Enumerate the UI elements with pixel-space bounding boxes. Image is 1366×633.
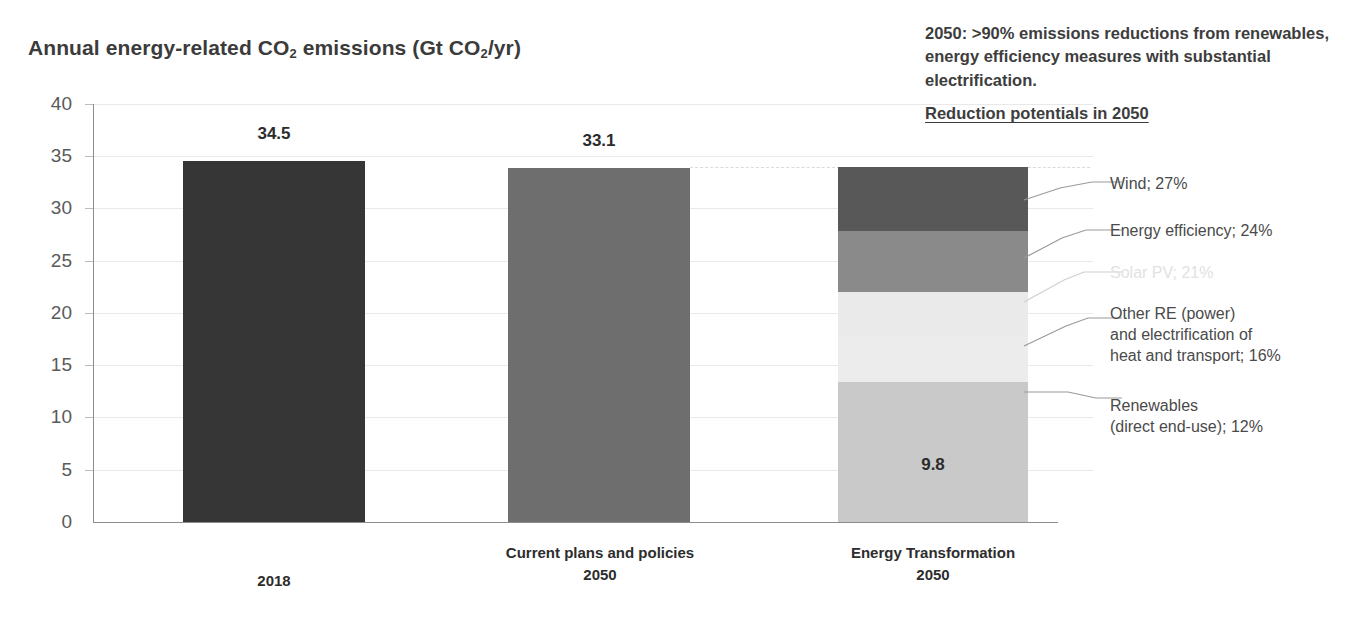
category-2018-year: 2018 (183, 570, 365, 592)
annotation-renewables: Renewables (direct end-use); 12% (1110, 395, 1366, 437)
annotation-solar-pv: Solar PV; 21% (1110, 262, 1360, 283)
bar-2018[interactable] (183, 161, 365, 522)
y-tick-20 (85, 313, 93, 314)
y-tick-label-25: 25 (14, 251, 72, 270)
projection-dashed-line (690, 167, 840, 168)
y-tick-40 (85, 104, 93, 105)
bar-value-current-plans: 33.1 (508, 131, 690, 151)
y-tick-label-0: 0 (14, 512, 72, 531)
annotation-energy-efficiency: Energy efficiency; 24% (1110, 220, 1360, 241)
gridline-40 (93, 104, 1093, 105)
chart-title-part2: emissions (Gt CO (297, 36, 481, 59)
callout-headline: 2050: >90% emissions reductions from ren… (925, 22, 1350, 92)
y-axis-line (93, 104, 94, 523)
bar-energy-transformation[interactable]: 9.8 (838, 167, 1028, 522)
chart-title-part1: Annual energy-related CO (28, 36, 289, 59)
category-label-energy-transformation: Energy Transformation 2050 (818, 542, 1048, 586)
chart-canvas: Annual energy-related CO2 emissions (Gt … (0, 0, 1366, 633)
category-current-plans-title: Current plans and policies (480, 542, 720, 564)
segment-energy-efficiency[interactable] (838, 231, 1028, 292)
x-axis-line (93, 522, 1058, 523)
segment-solar-pv[interactable] (838, 292, 1028, 337)
y-tick-label-15: 15 (14, 355, 72, 374)
y-tick-label-5: 5 (14, 460, 72, 479)
y-tick-label-10: 10 (14, 407, 72, 426)
annotation-wind: Wind; 27% (1110, 173, 1360, 194)
category-current-plans-year: 2050 (480, 564, 720, 586)
y-tick-10 (85, 417, 93, 418)
chart-title-sub-1: 2 (289, 46, 296, 61)
bar-value-remaining-emissions: 9.8 (838, 455, 1028, 475)
gridline-35 (93, 156, 1093, 157)
chart-title: Annual energy-related CO2 emissions (Gt … (28, 36, 521, 60)
y-tick-5 (85, 470, 93, 471)
y-tick-15 (85, 365, 93, 366)
chart-title-sub-2: 2 (481, 46, 488, 61)
category-label-current-plans: Current plans and policies 2050 (480, 542, 720, 586)
y-tick-label-30: 30 (14, 198, 72, 217)
bar-value-2018: 34.5 (183, 124, 365, 144)
segment-wind[interactable] (838, 167, 1028, 231)
y-tick-label-20: 20 (14, 303, 72, 322)
category-energy-transformation-year: 2050 (818, 564, 1048, 586)
y-tick-label-35: 35 (14, 146, 72, 165)
category-energy-transformation-title: Energy Transformation (818, 542, 1048, 564)
y-tick-30 (85, 208, 93, 209)
segment-other-re-electrification[interactable] (838, 337, 1028, 382)
segment-renewables-direct-enduse[interactable]: 9.8 (838, 382, 1028, 522)
y-tick-label-40: 40 (14, 94, 72, 113)
y-tick-35 (85, 156, 93, 157)
chart-title-part3: /yr) (488, 36, 521, 59)
bar-current-plans[interactable] (508, 168, 690, 522)
annotation-other-re: Other RE (power) and electrification of … (1110, 303, 1366, 366)
category-label-2018: 2018 (183, 570, 365, 592)
y-tick-25 (85, 261, 93, 262)
projection-dashed-line-right (1028, 167, 1090, 168)
